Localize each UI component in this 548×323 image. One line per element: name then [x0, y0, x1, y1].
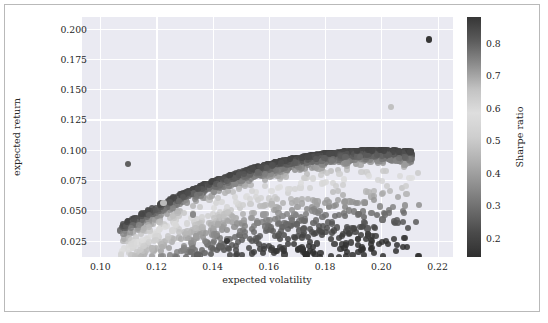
scatter-point: [241, 217, 247, 223]
colorbar-title: Sharpe ratio: [514, 107, 525, 168]
scatter-point: [403, 191, 409, 197]
colorbar-tick-label: 0.8: [486, 37, 501, 48]
y-tick-label: 0.200: [60, 23, 87, 34]
scatter-point: [306, 154, 312, 160]
scatter-point: [310, 175, 316, 181]
x-tick-label: 0.18: [315, 261, 336, 272]
colorbar-tick-label: 0.7: [486, 70, 501, 81]
scatter-point: [251, 229, 257, 235]
scatter-point: [380, 253, 386, 257]
scatter-point: [184, 199, 190, 205]
scatter-point: [416, 253, 422, 257]
scatter-point: [366, 173, 372, 179]
scatter-point: [299, 234, 305, 240]
scatter-point: [224, 178, 230, 184]
y-tick-label: 0.075: [60, 175, 87, 186]
scatter-point: [390, 204, 396, 210]
colorbar-tick-label: 0.2: [486, 232, 501, 243]
scatter-point: [205, 213, 211, 219]
scatter-point: [165, 233, 171, 239]
scatter-point: [262, 171, 268, 177]
scatter-point: [203, 230, 209, 236]
scatter-point: [369, 245, 375, 251]
scatter-point: [283, 173, 289, 179]
scatter-point: [240, 211, 246, 217]
scatter-point: [329, 158, 335, 164]
scatter-point: [178, 236, 184, 242]
colorbar-tick-label: 0.5: [486, 135, 501, 146]
scatter-point: [312, 251, 318, 257]
scatter-point: [323, 179, 329, 185]
scatter-point: [329, 221, 335, 227]
scatter-point: [184, 228, 190, 234]
scatter-point: [381, 147, 387, 153]
scatter-point: [382, 211, 388, 217]
scatter-point: [181, 245, 187, 251]
scatter-point: [167, 252, 173, 257]
x-tick-label: 0.22: [427, 261, 448, 272]
scatter-point: [340, 192, 346, 198]
scatter-point: [294, 221, 300, 227]
scatter-point: [357, 162, 363, 168]
scatter-point: [173, 254, 179, 257]
scatter-point: [269, 162, 275, 168]
x-tick-label: 0.20: [371, 261, 392, 272]
y-tick-label: 0.125: [60, 114, 87, 125]
scatter-point: [321, 155, 327, 161]
scatter-point: [149, 253, 155, 257]
scatter-point: [118, 252, 124, 257]
scatter-point: [346, 198, 352, 204]
scatter-point-annotated: [160, 200, 166, 206]
scatter-point: [195, 251, 201, 257]
colorbar-tick-label: 0.4: [486, 167, 501, 178]
scatter-point: [328, 253, 334, 257]
scatter-point: [336, 235, 342, 241]
scatter-points: [82, 17, 453, 257]
scatter-point: [285, 226, 291, 232]
y-tick-label: 0.175: [60, 53, 87, 64]
scatter-point: [247, 201, 253, 207]
scatter-point: [344, 159, 350, 165]
scatter-point: [146, 224, 152, 230]
colorbar-tick-label: 0.6: [486, 102, 501, 113]
scatter-point: [322, 200, 328, 206]
scatter-point: [156, 219, 162, 225]
scatter-point: [405, 225, 411, 231]
scatter-point: [128, 241, 134, 247]
scatter-point: [120, 231, 126, 237]
scatter-point: [348, 239, 354, 245]
scatter-point: [141, 243, 147, 249]
figure-canvas: 0.0250.0500.0750.1000.1250.1500.1750.200…: [4, 4, 540, 312]
scatter-point: [160, 253, 166, 257]
scatter-point: [385, 241, 391, 247]
scatter-point: [377, 203, 383, 209]
scatter-point: [313, 156, 319, 162]
scatter-point: [404, 244, 410, 250]
scatter-point: [309, 207, 315, 213]
scatter-point: [291, 241, 297, 247]
scatter-point: [255, 235, 261, 241]
scatter-point: [371, 197, 377, 203]
scatter-point: [393, 248, 399, 254]
scatter-point: [197, 204, 203, 210]
y-tick-label: 0.025: [60, 235, 87, 246]
scatter-point: [358, 169, 364, 175]
scatter-point: [166, 245, 172, 251]
scatter-point: [416, 202, 422, 208]
scatter-point: [369, 147, 375, 153]
scatter-point: [403, 183, 409, 189]
scatter-point: [266, 217, 272, 223]
scatter-point: [192, 225, 198, 231]
scatter-point: [355, 236, 361, 242]
y-axis-title: expected return: [11, 98, 22, 176]
scatter-point: [314, 240, 320, 246]
scatter-point: [361, 252, 367, 257]
scatter-point: [342, 154, 348, 160]
scatter-point: [162, 224, 168, 230]
scatter-point: [343, 253, 349, 257]
scatter-point: [171, 236, 177, 242]
scatter-point: [233, 243, 239, 249]
scatter-point: [397, 173, 403, 179]
scatter-point: [379, 191, 385, 197]
scatter-point: [279, 224, 285, 230]
